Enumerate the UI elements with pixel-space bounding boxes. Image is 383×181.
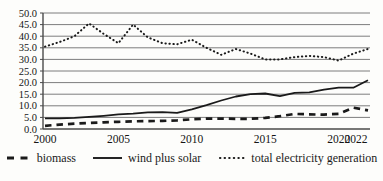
line-chart: 0.05.010.015.020.025.030.035.040.045.050… [0, 0, 383, 181]
legend-label-wind-plus-solar: wind plus solar [128, 152, 201, 164]
legend-item-biomass: biomass [6, 152, 76, 164]
y-axis-tick-label: 15.0 [19, 89, 37, 100]
x-axis-tick-label: 2015 [254, 133, 277, 145]
legend-label-total-electricity-generation: total electricity generation [251, 152, 377, 164]
legend-item-total-electricity-generation: total electricity generation [218, 152, 377, 164]
series-line-total-electricity-generation [45, 23, 368, 60]
y-axis-tick-label: 25.0 [19, 66, 37, 77]
dotted-line-icon [218, 154, 245, 162]
legend: biomass wind plus solar total electricit… [0, 152, 383, 164]
y-axis-tick-label: 40.0 [19, 31, 37, 42]
y-axis-tick-label: 20.0 [19, 77, 37, 88]
series-line-wind-plus-solar [45, 80, 368, 118]
y-axis-tick-label: 45.0 [19, 19, 37, 30]
x-axis-tick-label: 2022 [345, 133, 368, 145]
y-axis-tick-label: 5.0 [24, 112, 37, 123]
x-axis-tick-label: 2000 [34, 133, 57, 145]
x-axis-tick-label: 2005 [107, 133, 130, 145]
y-axis-tick-label: 50.0 [19, 8, 37, 19]
y-axis-tick-label: 35.0 [19, 42, 37, 53]
x-axis-tick-label: 2010 [180, 133, 203, 145]
legend-label-biomass: biomass [37, 152, 76, 164]
legend-item-wind-plus-solar: wind plus solar [93, 152, 201, 164]
solid-line-icon [93, 154, 122, 162]
y-axis-tick-label: 30.0 [19, 54, 37, 65]
line-chart-canvas: 0.05.010.015.020.025.030.035.040.045.050… [0, 0, 383, 148]
y-axis-tick-label: 10.0 [19, 100, 37, 111]
dashed-line-icon [6, 154, 31, 162]
